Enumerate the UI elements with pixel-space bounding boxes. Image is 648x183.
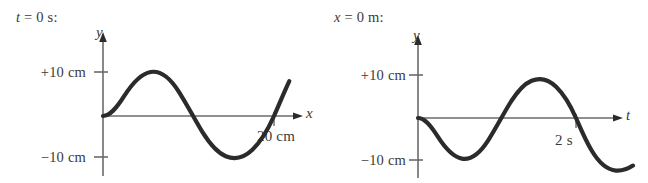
wave-figure: t = 0 s: +10 cm −10 cm y x 20 cm (0, 0, 648, 183)
snapshot-graph-panel: t = 0 s: +10 cm −10 cm y x 20 cm (0, 0, 324, 183)
history-graph-panel: x = 0 m: +10 cm −10 cm y t 2 s (324, 0, 648, 183)
snapshot-graph-plot (0, 0, 324, 183)
history-graph-plot (324, 0, 648, 183)
snapshot-y-axis-arrowhead (99, 32, 107, 42)
history-wave-curve (418, 79, 633, 171)
snapshot-x-axis-arrowhead (293, 112, 303, 119)
snapshot-wave-curve (103, 72, 289, 158)
history-t-axis-arrowhead (613, 114, 623, 121)
history-y-axis-arrowhead (414, 35, 422, 45)
